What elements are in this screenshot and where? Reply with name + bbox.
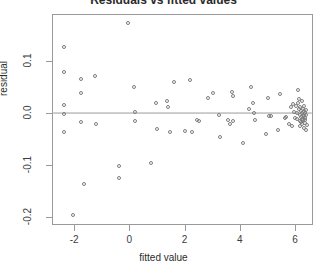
data-point (284, 115, 288, 119)
data-point (62, 112, 66, 116)
data-point (241, 141, 245, 145)
data-point (290, 124, 294, 128)
data-point (79, 77, 83, 81)
data-point (264, 132, 268, 136)
data-point (230, 90, 234, 94)
data-point (197, 119, 201, 123)
x-tick-mark (74, 225, 75, 231)
data-point (149, 161, 153, 165)
x-tick-label: 2 (170, 234, 200, 245)
data-point (71, 213, 75, 217)
plot-frame (52, 14, 313, 225)
y-axis-label: residual (0, 61, 9, 96)
data-point (217, 113, 221, 117)
data-point (82, 182, 86, 186)
data-point (165, 99, 169, 103)
data-point (62, 45, 66, 49)
data-point (304, 108, 308, 112)
data-point (276, 128, 280, 132)
data-point (190, 130, 194, 134)
data-point (168, 130, 172, 134)
chart-title: Residuals vs fitted values (0, 0, 327, 7)
data-point (251, 101, 255, 105)
data-point (79, 91, 83, 95)
x-tick-mark (129, 225, 130, 231)
y-tick-label: -0.1 (22, 150, 33, 180)
data-point (79, 120, 83, 124)
data-point (188, 78, 192, 82)
data-point (133, 110, 137, 114)
data-point (172, 80, 176, 84)
data-point (304, 113, 308, 117)
data-point (278, 92, 282, 96)
data-point (266, 96, 270, 100)
y-tick-label: 0.0 (22, 97, 33, 127)
data-points-layer (53, 15, 312, 224)
data-point (304, 128, 308, 132)
data-point (133, 119, 137, 123)
scatter-plot: Residuals vs fitted values residual fitt… (0, 0, 327, 277)
data-point (62, 103, 66, 107)
y-tick-label: 0.1 (22, 45, 33, 75)
x-axis-label: fitted value (0, 252, 327, 263)
data-point (300, 99, 304, 103)
data-point (206, 96, 210, 100)
data-point (183, 129, 187, 133)
data-point (132, 85, 136, 89)
x-tick-label: 6 (280, 234, 310, 245)
data-point (269, 114, 273, 118)
data-point (211, 91, 215, 95)
data-point (296, 88, 300, 92)
x-tick-label: -2 (59, 234, 89, 245)
data-point (94, 122, 98, 126)
x-tick-label: 4 (225, 234, 255, 245)
x-tick-mark (295, 225, 296, 231)
data-point (249, 85, 253, 89)
data-point (166, 105, 170, 109)
x-tick-label: 0 (114, 234, 144, 245)
data-point (247, 107, 251, 111)
y-tick-label: -0.2 (22, 202, 33, 232)
data-point (117, 176, 121, 180)
data-point (93, 74, 97, 78)
data-point (252, 111, 256, 115)
data-point (303, 118, 307, 122)
data-point (253, 118, 257, 122)
data-point (154, 101, 158, 105)
data-point (218, 135, 222, 139)
data-point (305, 123, 309, 127)
data-point (126, 21, 130, 25)
data-point (231, 119, 235, 123)
data-point (155, 127, 159, 131)
data-point (231, 94, 235, 98)
data-point (117, 164, 121, 168)
data-point (62, 130, 66, 134)
x-tick-mark (185, 225, 186, 231)
x-tick-mark (240, 225, 241, 231)
data-point (62, 70, 66, 74)
